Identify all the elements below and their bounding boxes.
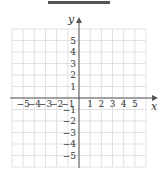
x-tick-label: 3 bbox=[110, 99, 116, 109]
x-axis-label: x bbox=[151, 100, 158, 113]
y-tick-label: 4 bbox=[70, 47, 76, 57]
y-tick-label: −3 bbox=[63, 128, 77, 138]
y-tick-label: 3 bbox=[70, 59, 76, 69]
x-tick-labels: −5−4−3−2−112345 bbox=[17, 99, 138, 109]
coordinate-plane: x y −5−4−3−2−112345 54321−1−2−3−4−5 bbox=[0, 0, 165, 175]
y-tick-label: 1 bbox=[70, 82, 76, 92]
y-tick-label: −1 bbox=[63, 105, 76, 115]
y-tick-label: −2 bbox=[63, 116, 76, 126]
y-tick-label: −4 bbox=[63, 139, 77, 149]
y-tick-label: 2 bbox=[70, 70, 76, 80]
x-tick-label: 2 bbox=[98, 99, 104, 109]
y-tick-label: −5 bbox=[63, 151, 77, 161]
y-tick-label: 5 bbox=[70, 36, 76, 46]
x-tick-label: 1 bbox=[87, 99, 93, 109]
y-axis-label: y bbox=[67, 13, 75, 26]
x-tick-label: 4 bbox=[121, 99, 127, 109]
x-tick-label: 5 bbox=[132, 99, 138, 109]
y-axis-arrow-icon bbox=[76, 17, 82, 23]
